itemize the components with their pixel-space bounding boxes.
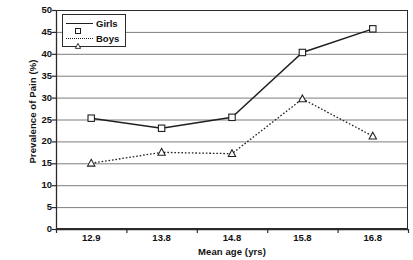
x-tick-label: 13.8 (135, 233, 189, 243)
series-line-girls (91, 29, 373, 128)
legend-swatch-girls-square-icon (66, 18, 93, 29)
x-tick-label: 12.9 (64, 233, 118, 243)
legend-swatch-boys-triangle-icon (66, 33, 93, 44)
series-girls (88, 26, 376, 132)
x-tick-label: 14.8 (205, 233, 259, 243)
x-tick-label: 15.8 (275, 233, 329, 243)
data-point (88, 159, 95, 166)
series-boys (88, 95, 377, 166)
data-point (158, 125, 164, 131)
data-point (299, 49, 305, 55)
y-axis-ticks (52, 11, 56, 230)
legend: Girls Boys (62, 14, 126, 47)
legend-label-boys: Boys (93, 34, 119, 44)
data-point (370, 26, 376, 32)
data-point (229, 114, 235, 120)
data-point (369, 132, 376, 139)
prevalence-of-pain-line-chart: Prevalence of Pain (%) 05101520253035404… (0, 0, 413, 260)
x-tick-label: 16.8 (346, 233, 400, 243)
data-point (88, 115, 94, 121)
x-axis-title: Mean age (yrs) (56, 246, 408, 257)
legend-label-girls: Girls (93, 19, 118, 29)
x-axis-tick-labels: 12.913.814.815.816.8 (0, 233, 413, 247)
data-point (228, 150, 235, 157)
legend-entry-girls: Girls (63, 16, 125, 31)
legend-entry-boys: Boys (63, 31, 125, 46)
